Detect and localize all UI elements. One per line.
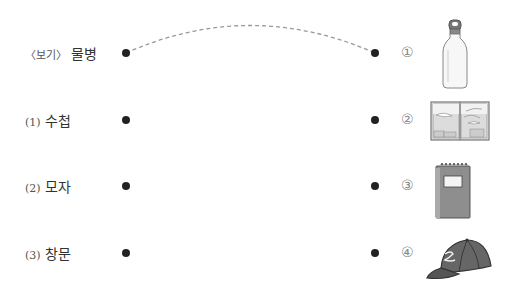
item-prefix: (1) bbox=[25, 116, 41, 129]
item-word: 모자 bbox=[45, 179, 71, 195]
right-connector-dot[interactable] bbox=[371, 249, 379, 257]
cap-icon bbox=[425, 236, 495, 282]
left-connector-dot[interactable] bbox=[122, 116, 130, 124]
circled-number: ① bbox=[401, 44, 414, 60]
item-prefix: 〈보기〉 bbox=[25, 49, 67, 62]
match-row-example: 〈보기〉물병 ① bbox=[0, 38, 507, 68]
match-row-2: (2)모자 ③ bbox=[0, 171, 507, 201]
right-connector-dot[interactable] bbox=[371, 49, 379, 57]
item-word: 수첩 bbox=[45, 113, 71, 129]
item-word: 물병 bbox=[71, 46, 97, 62]
window-icon bbox=[430, 101, 490, 141]
left-connector-dot[interactable] bbox=[122, 49, 130, 57]
left-label: (2)모자 bbox=[25, 176, 71, 196]
left-label: (1)수첩 bbox=[25, 110, 71, 130]
matching-exercise: 〈보기〉물병 ① (1)수첩 ② (2)모자 ③ (3)창문 ④ bbox=[0, 0, 507, 295]
item-prefix: (3) bbox=[25, 249, 41, 262]
left-label: (3)창문 bbox=[25, 243, 71, 263]
item-prefix: (2) bbox=[25, 182, 41, 195]
right-connector-dot[interactable] bbox=[371, 182, 379, 190]
water-bottle-icon bbox=[440, 18, 470, 90]
left-label: 〈보기〉물병 bbox=[25, 43, 97, 63]
left-connector-dot[interactable] bbox=[122, 249, 130, 257]
circled-number: ④ bbox=[401, 244, 414, 260]
item-word: 창문 bbox=[45, 246, 71, 262]
circled-number: ② bbox=[401, 111, 414, 127]
notebook-icon bbox=[434, 162, 472, 220]
circled-number: ③ bbox=[401, 177, 414, 193]
right-connector-dot[interactable] bbox=[371, 116, 379, 124]
left-connector-dot[interactable] bbox=[122, 182, 130, 190]
